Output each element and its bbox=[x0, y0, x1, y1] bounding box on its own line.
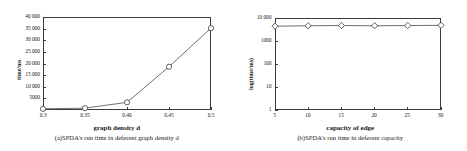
data-point-marker bbox=[305, 23, 311, 29]
caption-b: (b)SPDA's run time in deferent capacity bbox=[234, 134, 467, 142]
data-point-marker bbox=[208, 26, 213, 31]
data-point-marker bbox=[124, 100, 129, 105]
series-line bbox=[43, 28, 211, 109]
data-point-marker bbox=[82, 106, 87, 111]
x-axis-title-b: capacity of edge bbox=[234, 124, 467, 132]
x-axis-title-a: graph density d bbox=[0, 124, 234, 132]
y-axis-title-b: log(time/ms) bbox=[248, 58, 254, 90]
data-point-marker bbox=[40, 106, 45, 111]
panel-a: 500010 00015 00020 00025 00030 00035 000… bbox=[0, 0, 234, 151]
caption-a: (a)SPDA's run time in deferent graph den… bbox=[0, 134, 234, 142]
series-line bbox=[275, 25, 441, 26]
data-point-marker bbox=[166, 64, 171, 69]
data-point-marker bbox=[371, 23, 377, 29]
data-point-marker bbox=[437, 22, 443, 28]
data-point-marker bbox=[404, 22, 410, 28]
panel-b: 110100100010 000 51015202530 log(time/ms… bbox=[234, 0, 467, 151]
data-point-marker bbox=[338, 22, 344, 28]
y-axis-title-a: time/ms bbox=[16, 60, 22, 80]
figure-container: 500010 00015 00020 00025 00030 00035 000… bbox=[0, 0, 467, 151]
data-point-marker bbox=[271, 23, 277, 29]
